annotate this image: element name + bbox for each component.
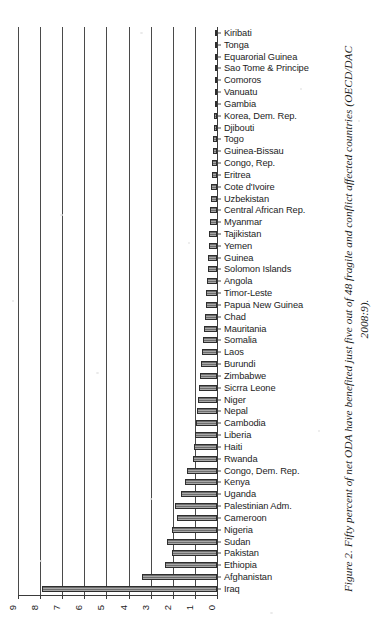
category-tick [218,269,221,270]
category-label: Iraq [224,584,240,594]
category-tick [218,115,221,116]
x-tick-label: 9 [7,601,18,615]
category-label: Nepal [224,406,248,416]
scan-speckle [188,242,190,244]
category-label: Chad [224,312,246,322]
category-tick [218,470,221,471]
category-label: Equarorial Guinea [224,52,297,62]
bar-palestinian-adm [175,503,217,509]
bar-kenya [185,479,217,485]
bar-congo-dem-rep [187,468,217,474]
category-label: Myanmar [224,217,262,227]
scan-speckle [270,612,273,614]
bar-papua-new-guinea [206,302,217,308]
bar-eritrea [212,172,217,178]
category-label: Togo [224,134,244,144]
category-tick [218,316,221,317]
bar-guinea [208,255,217,261]
category-label: Burundi [224,359,255,369]
x-tick-label: 8 [29,601,40,615]
x-tick [106,595,107,599]
category-label: Gambia [224,99,256,109]
category-label: Eritrea [224,170,251,180]
category-label: Afghanistan [224,572,272,582]
bar-central-african-rep [210,207,217,213]
category-label: Haiti [224,442,242,452]
bar-nepal [197,408,217,414]
figure-caption: Figure 2. Fifty percent of net ODA have … [328,0,384,638]
category-tick [218,364,221,365]
category-tick [218,506,221,507]
x-axis-ticks: 9876543210 [18,595,218,619]
category-tick [218,245,221,246]
category-tick [218,553,221,554]
category-label: Vanuatu [224,87,257,97]
x-tick-label: 5 [95,601,106,615]
scan-speckle [358,120,360,122]
category-label: Comoros [224,75,261,85]
x-tick-label: 6 [73,601,84,615]
scan-speckle [60,214,63,216]
category-tick [218,352,221,353]
bar-vanuatu [215,89,217,95]
category-tick [218,233,221,234]
category-label: Tajikistan [224,229,261,239]
category-tick [218,163,221,164]
category-label: Congo, Dem. Rep. [224,466,299,476]
x-tick-label: 2 [161,601,172,615]
category-label: Korea, Dem. Rep. [224,111,297,121]
category-tick [218,103,221,104]
scan-speckle [140,32,143,34]
category-tick [218,541,221,542]
bar-cameroon [177,515,217,521]
category-tick [218,588,221,589]
bar-uzbekistan [211,196,217,202]
category-label: Kenya [224,477,250,487]
bar-burundi [201,361,217,367]
category-label: Cambodia [224,418,266,428]
category-label: Cote d'Ivoire [224,182,275,192]
category-label: Kiribati [224,28,252,38]
bar-pakistan [172,550,217,556]
bar-iraq [42,586,217,592]
category-tick [218,340,221,341]
category-label: Liberia [224,430,251,440]
category-tick [218,32,221,33]
category-label: Uganda [224,489,256,499]
category-label: Guinea [224,253,253,263]
x-tick [62,595,63,599]
category-label: Sudan [224,537,250,547]
category-tick [218,482,221,483]
category-tick [218,80,221,81]
bar-sao-tome-principe [215,65,217,71]
category-tick [218,529,221,530]
category-label: Papua New Guinea [224,300,303,310]
category-label: Timor-Leste [224,288,272,298]
category-label: Mauritania [224,324,266,334]
category-tick [218,174,221,175]
category-label: Palestinian Adm. [224,501,292,511]
category-tick [218,577,221,578]
category-tick [218,257,221,258]
category-tick [218,210,221,211]
bar-djibouti [214,125,217,131]
category-label: Niger [224,395,246,405]
scan-speckle [300,88,302,90]
category-tick [218,494,221,495]
bar-cote-d-ivoire [211,184,217,190]
x-tick [18,595,19,599]
category-label: Cameroon [224,513,267,523]
category-label: Zimbabwe [224,371,266,381]
bar-tonga [215,42,217,48]
bar-afghanistan [142,574,217,580]
bar-ethiopia [165,562,217,568]
scan-speckle [248,300,250,302]
category-label: Guinea-Bissau [224,146,284,156]
bar-niger [198,397,217,403]
category-tick [218,92,221,93]
category-label: Sicrra Leone [224,383,276,393]
bar-congo-rep [212,160,217,166]
category-label: Pakistan [224,548,259,558]
category-tick [218,127,221,128]
bar-cambodia [196,420,217,426]
